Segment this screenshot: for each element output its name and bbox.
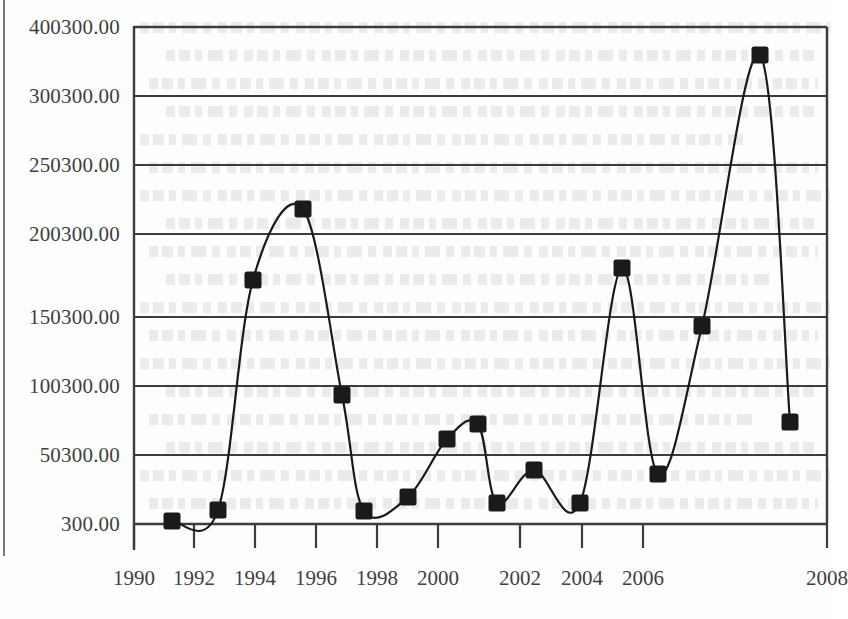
plot-frame [134, 26, 827, 550]
data-point-markers: 1991: 18001992: 95001993: 1703001994: 21… [164, 47, 799, 530]
x-axis-tick-label: 2004 [561, 566, 603, 591]
data-point-marker: 1994: 218300 [295, 201, 312, 218]
x-axis-tick-label: 2006 [622, 566, 664, 591]
data-point-marker: 2007: 69300 [782, 414, 799, 431]
data-point-marker: 1997: 18300 [400, 489, 417, 506]
x-axis-tick-label: 2000 [417, 566, 459, 591]
x-axis-tick-label: 1996 [295, 566, 337, 591]
x-axis-tick-label: 1990 [113, 566, 155, 591]
data-point-marker: 1993: 170300 [245, 272, 262, 289]
data-point-marker: 2002: 16500 [572, 495, 589, 512]
data-point-marker: 1992: 9500 [210, 502, 227, 519]
x-axis-tick-label: 1998 [356, 566, 398, 591]
data-point-marker: 2001: 36300 [526, 462, 543, 479]
x-axis-tick-label: 1992 [173, 566, 215, 591]
data-point-marker: 1991: 1800 [164, 513, 181, 530]
plot-area: 1991: 18001992: 95001993: 1703001994: 21… [0, 0, 834, 560]
x-axis-tick-label: 2008 [806, 566, 848, 591]
series-line [172, 54, 790, 531]
data-point-marker: 1998: 57300 [439, 431, 456, 448]
x-axis-tick-labels: 1990199219941996199820002002200420062008 [0, 566, 834, 606]
gridlines [134, 27, 827, 524]
x-axis-tick-label: 2002 [499, 566, 541, 591]
data-point-marker: 2005: 135300 [694, 318, 711, 335]
data-point-marker: 2003: 179300 [614, 260, 631, 277]
data-point-marker: 1996: 9000 [356, 503, 373, 520]
x-axis-ticks [134, 524, 827, 548]
data-point-marker: 2006: 378300 [752, 47, 769, 64]
x-axis-tick-label: 1994 [234, 566, 276, 591]
data-point-marker: 2000: 16800 [489, 495, 506, 512]
data-point-marker: 2004: 35300 [650, 466, 667, 483]
data-point-marker: 1995: 91300 [334, 387, 351, 404]
data-point-marker: 1999: 68300 [470, 416, 487, 433]
